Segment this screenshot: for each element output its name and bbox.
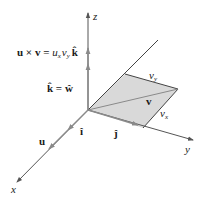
z-axis-label: z [92,10,98,22]
i-hat-label: î [79,125,84,137]
y-axis-label: y [184,143,190,155]
u-vector-arrow [49,130,68,149]
k-equals-w-label: k̂ = ŵ [47,82,73,94]
j-hat-label: ĵ [113,127,118,139]
v-vector-label: v [146,95,152,107]
v-y-label: vy [149,69,158,83]
cross-product-label: u × v = uxvyk̂ [17,46,79,60]
x-axis-label: x [10,183,16,195]
i-hat-arrow [68,110,88,130]
u-vector-label: u [39,135,45,147]
v-x-label: vx [160,107,169,121]
cross-product-diagram: z y x u × v = uxvyk̂ k̂ = ŵ vy vx v î ĵ … [0,0,205,198]
